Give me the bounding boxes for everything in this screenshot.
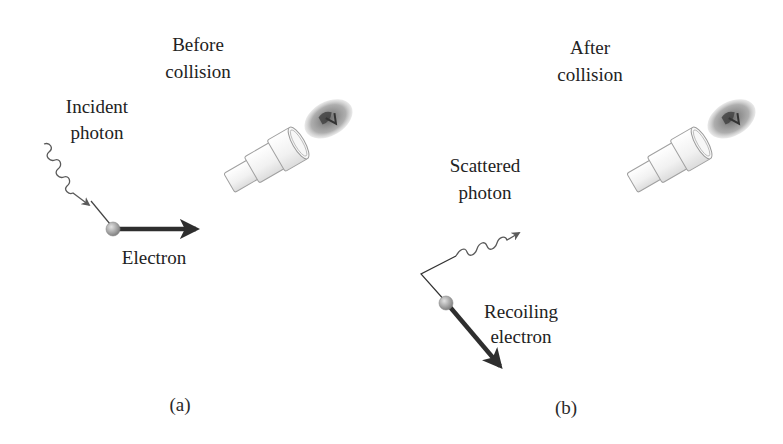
eye-at-eyepiece-icon	[621, 91, 766, 199]
panel-b-caption: (b)	[555, 397, 577, 419]
panel-b-title-line2: collision	[557, 64, 623, 85]
electron-sphere-icon	[106, 222, 120, 236]
incident-photon-label-line1: Incident	[66, 96, 129, 117]
scattered-photon-label-line1: Scattered	[450, 155, 521, 176]
electron-sphere-icon	[439, 296, 453, 310]
panel-b-title-line1: After	[570, 37, 611, 58]
panel-a-title-line2: collision	[165, 61, 231, 82]
wavy-arrow-icon	[421, 233, 519, 302]
incident-photon-label-line2: photon	[71, 122, 124, 143]
panel-a: Before collision Incident photon Electro…	[44, 34, 363, 416]
eye-at-eyepiece-icon	[218, 91, 363, 199]
wavy-arrow-icon	[44, 144, 110, 224]
panel-a-title-line1: Before	[172, 34, 224, 55]
recoiling-electron-label-line1: Recoiling	[484, 301, 558, 322]
compton-scattering-diagram: Before collision Incident photon Electro…	[0, 0, 783, 444]
panel-b: After collision Scattered photon Recoili…	[421, 37, 766, 419]
recoiling-electron-label-line2: electron	[490, 326, 552, 347]
panel-a-caption: (a)	[169, 394, 190, 416]
scattered-photon-label-line2: photon	[459, 182, 512, 203]
electron-label: Electron	[122, 247, 187, 268]
